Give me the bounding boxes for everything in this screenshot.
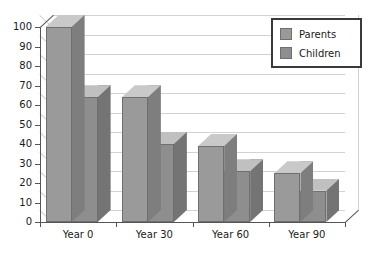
gridline-back (53, 74, 345, 75)
bar-side-face (98, 85, 111, 222)
y-axis-tick-label: 80 (19, 61, 32, 71)
y-axis-tick-label: 50 (19, 120, 32, 130)
bar-chart: 0102030405060708090100 Year 0Year 30Year… (0, 0, 373, 253)
bar-parents-year-90 (274, 161, 313, 222)
y-axis-tick (35, 125, 40, 126)
bar-parents-year-60 (198, 134, 237, 222)
y-axis-tick (35, 144, 40, 145)
y-axis-tick-label: 40 (19, 139, 32, 149)
x-axis-tick (345, 222, 346, 227)
y-axis-tick (35, 203, 40, 204)
legend-item-children: Children (280, 47, 341, 59)
y-axis-tick (35, 47, 40, 48)
legend-swatch-parents (280, 28, 292, 40)
y-axis-tick-label: 60 (19, 100, 32, 110)
y-axis-tick (35, 86, 40, 87)
x-axis-tick-label: Year 60 (193, 229, 269, 240)
bar-side-face (148, 85, 161, 222)
y-axis-tick (35, 183, 40, 184)
bar-parents-year-30 (122, 85, 161, 222)
y-axis-tick (35, 164, 40, 165)
floor-depth-edge (345, 210, 359, 223)
x-axis-tick-label: Year 30 (116, 229, 192, 240)
gridline-back (53, 15, 345, 16)
y-axis-tick-label: 70 (19, 81, 32, 91)
legend-label-parents: Parents (299, 29, 336, 40)
bar-parents-year-0 (46, 15, 85, 222)
bar-side-face (72, 15, 85, 222)
x-axis-tick (116, 222, 117, 227)
bar-front-face (274, 173, 300, 222)
bar-front-face (122, 97, 148, 222)
y-axis-tick-label: 100 (13, 22, 32, 32)
y-axis-tick (35, 27, 40, 28)
x-axis-tick-label: Year 90 (269, 229, 345, 240)
legend-item-parents: Parents (280, 28, 336, 40)
x-axis-tick (40, 222, 41, 227)
bar-side-face (174, 132, 187, 222)
chart-legend: Parents Children (271, 18, 362, 68)
bar-front-face (198, 146, 224, 222)
bar-side-face (224, 134, 237, 222)
bar-front-face (46, 27, 72, 222)
x-axis-tick (269, 222, 270, 227)
y-axis-tick (35, 66, 40, 67)
x-axis-tick (193, 222, 194, 227)
y-axis-tick-label: 10 (19, 198, 32, 208)
x-axis-tick-label: Year 0 (40, 229, 116, 240)
y-axis-tick-label: 30 (19, 159, 32, 169)
y-axis-tick-label: 90 (19, 42, 32, 52)
legend-label-children: Children (299, 48, 341, 59)
legend-swatch-children (280, 47, 292, 59)
y-axis-tick-label: 20 (19, 178, 32, 188)
y-axis-line (40, 27, 41, 222)
y-axis-tick (35, 105, 40, 106)
y-axis-tick-label: 0 (26, 217, 32, 227)
